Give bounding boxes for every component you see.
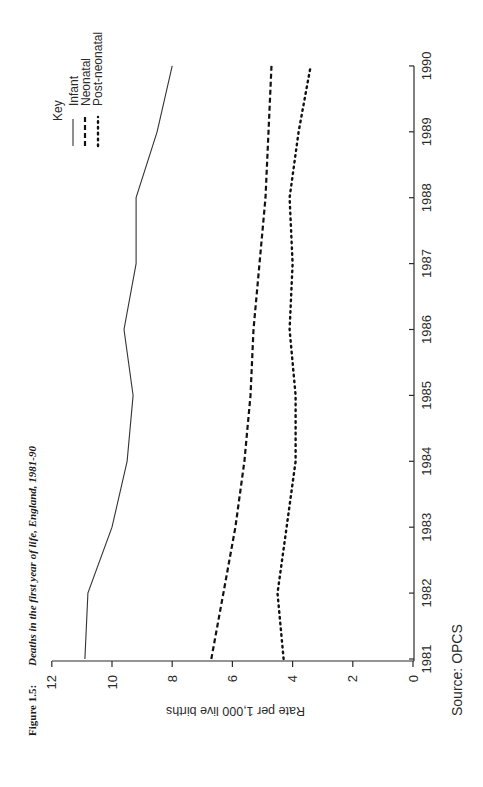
value-tick-label: 8: [165, 675, 180, 682]
year-tick-label: 1990: [419, 51, 434, 80]
y-axis-title: Rate per 1,000 live births: [166, 704, 305, 718]
year-axis-ticks: 1981198219831984198519861987198819891990: [409, 51, 434, 673]
value-tick-label: 10: [105, 675, 120, 689]
chart: Figure 1.5: Deaths in the first year of …: [0, 0, 483, 787]
value-tick-label: 4: [285, 675, 300, 682]
source-note: Source: OPCS: [449, 624, 465, 716]
year-tick-label: 1987: [419, 249, 434, 278]
figure-title: Figure 1.5: Deaths in the first year of …: [26, 445, 38, 736]
series-neonatal-line: [211, 66, 271, 659]
figure-number: Figure 1.5:: [26, 685, 38, 736]
year-tick-label: 1986: [419, 315, 434, 344]
legend-post-neonatal-label: Post-neonatal: [91, 32, 105, 106]
year-tick-label: 1984: [419, 447, 434, 476]
year-tick-label: 1983: [419, 513, 434, 542]
value-tick-label: 6: [225, 675, 240, 682]
value-axis-ticks: 024681012: [44, 661, 420, 689]
year-tick-label: 1988: [419, 183, 434, 212]
value-tick-label: 2: [345, 675, 360, 682]
legend-title: Key: [51, 100, 65, 121]
legend: Key Infant Neonatal Post-neonatal: [51, 32, 105, 146]
year-tick-label: 1982: [419, 579, 434, 608]
series-infant-line: [85, 66, 172, 659]
year-tick-label: 1981: [419, 645, 434, 674]
series-post-neonatal-line: [278, 66, 311, 659]
value-tick-label: 0: [406, 675, 421, 682]
year-tick-label: 1989: [419, 117, 434, 146]
year-tick-label: 1985: [419, 381, 434, 410]
value-tick-label: 12: [44, 675, 59, 689]
figure-title-text: Deaths in the first year of life, Englan…: [26, 445, 38, 667]
